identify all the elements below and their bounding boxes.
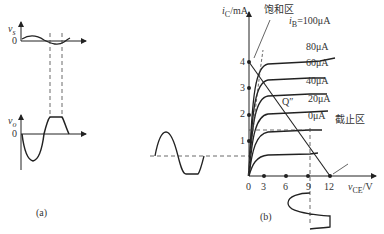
- y-axis-label: iC/mA: [222, 6, 248, 20]
- panel-a-output-waveform: [21, 115, 86, 170]
- q-point-label: Q″: [282, 97, 293, 107]
- cutoff-region-label: 截止区: [335, 115, 365, 125]
- ib-80-label: 80μA: [306, 42, 329, 52]
- ib-0-label: 0μA: [308, 111, 326, 121]
- x-tick-0: 0: [246, 182, 251, 192]
- vce-output-waveform: [288, 193, 330, 229]
- saturation-region-label: 饱和区: [264, 5, 294, 15]
- x-tick-12: 12: [324, 182, 334, 192]
- diagram-canvas: [0, 0, 384, 234]
- x-tick-6: 6: [283, 182, 288, 192]
- y-tick-1: 1: [240, 136, 245, 146]
- ib-input-waveform: [155, 132, 204, 174]
- caption-b: (b): [260, 212, 272, 222]
- ib-20-label: 20μA: [308, 94, 331, 104]
- x-tick-9: 9: [306, 182, 311, 192]
- origin-label-bottom: 0: [12, 129, 17, 139]
- y-tick-2: 2: [240, 109, 245, 119]
- y-tick-4: 4: [240, 57, 245, 67]
- ib-100-label: iB=100μA: [289, 16, 330, 30]
- caption-a: (a): [36, 208, 47, 218]
- origin-label-top: 0: [12, 36, 17, 46]
- x-tick-3: 3: [261, 182, 266, 192]
- y-tick-3: 3: [240, 83, 245, 93]
- ib-40-label: 40μA: [306, 76, 329, 86]
- ib-60-label: 60μA: [306, 58, 329, 68]
- x-axis-label: vCE/V: [348, 182, 373, 196]
- panel-a-input-waveform: [21, 22, 86, 44]
